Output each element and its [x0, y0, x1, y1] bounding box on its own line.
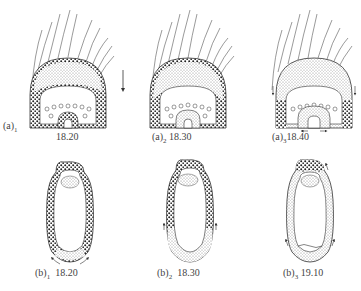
panel-a1-drawing — [30, 10, 114, 128]
panel-a1-time: 18.20 — [56, 131, 79, 142]
panel-a3-drawing — [272, 10, 355, 131]
panel-a1-label: (a)1 — [3, 120, 18, 134]
diagram-canvas — [0, 0, 361, 291]
panel-a2-time: 18.30 — [169, 131, 192, 142]
panel-b2-drawing — [164, 160, 216, 262]
panel-a3-time: 18.40 — [287, 131, 310, 142]
panel-b1-label: (b)1 18.20 — [35, 267, 78, 281]
panel-b3-drawing — [286, 160, 334, 262]
panel-a3-label: (a)318.40 — [272, 131, 309, 145]
panel-b1-time: 18.20 — [55, 267, 78, 278]
panel-b2-label: (b)2 18.30 — [157, 267, 200, 281]
panel-b3-time: 19.10 — [301, 267, 324, 278]
panel-a2-label: (a)2 18.30 — [152, 131, 192, 145]
panel-a2-drawing — [150, 10, 234, 128]
panel-b2-time: 18.30 — [177, 267, 200, 278]
panel-b3-label: (b)3 19.10 — [283, 267, 323, 281]
panel-b1-drawing — [47, 162, 94, 264]
